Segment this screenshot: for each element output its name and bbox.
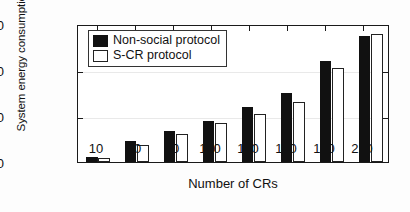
- y-tickmark-1000-right: [383, 118, 388, 119]
- x-tickmark-160-top: [287, 26, 288, 31]
- x-tick-label-40: 40: [127, 141, 141, 156]
- bar-non-social-10: [86, 157, 98, 162]
- x-tickmark-220-top: [363, 26, 364, 31]
- y-tickmark-2000-right: [383, 72, 388, 73]
- x-tick-label-130: 130: [237, 141, 259, 156]
- legend-swatch-dark-icon: [93, 35, 108, 47]
- x-tick-label-220: 220: [351, 141, 373, 156]
- legend-label-non-social: Non-social protocol: [113, 34, 220, 47]
- x-tick-label-10: 10: [89, 141, 103, 156]
- y-tick-label-0: 0: [0, 156, 4, 171]
- y-tick-label-1000: 1000: [0, 110, 4, 125]
- y-tick-label-3000: 3000: [0, 18, 4, 33]
- y-tickmark-1000-left: [78, 118, 83, 119]
- figure-canvas: System energy consumption (J) 0 1000 200…: [0, 0, 410, 212]
- legend: Non-social protocol S-CR protocol: [88, 30, 227, 67]
- y-axis-label: System energy consumption (J): [15, 0, 27, 137]
- legend-entry-non-social: Non-social protocol: [93, 33, 220, 48]
- legend-label-s-cr: S-CR protocol: [113, 49, 192, 62]
- legend-swatch-light-icon: [93, 50, 108, 62]
- x-axis-label: Number of CRs: [77, 176, 389, 191]
- y-tickmark-2000-left: [78, 72, 83, 73]
- x-tick-label-190: 190: [313, 141, 335, 156]
- y-tick-label-2000: 2000: [0, 64, 4, 79]
- x-tick-label-100: 100: [199, 141, 221, 156]
- bar-s-cr-10: [98, 158, 110, 162]
- x-tick-label-70: 70: [165, 141, 179, 156]
- x-tickmark-130-top: [249, 26, 250, 31]
- legend-entry-s-cr: S-CR protocol: [93, 48, 220, 63]
- x-tickmark-190-top: [325, 26, 326, 31]
- x-tick-label-160: 160: [275, 141, 297, 156]
- plot-area: Non-social protocol S-CR protocol: [77, 25, 389, 163]
